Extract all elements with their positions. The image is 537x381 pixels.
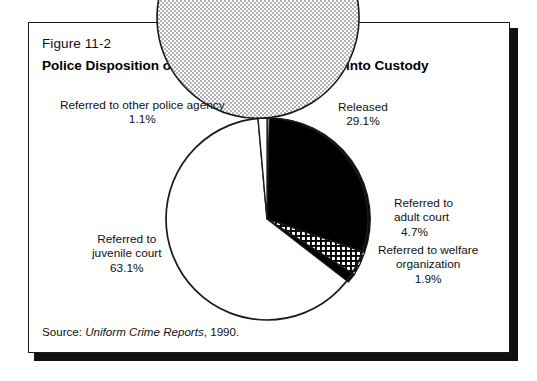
source-publication: Uniform Crime Reports [85, 325, 204, 338]
slice-label-released-text: Released [338, 100, 388, 114]
slice-label-juvenile-line2: juvenile court [92, 246, 162, 260]
slice-label-welfare-organization: Referred to welfare organization 1.9% [378, 243, 478, 286]
slice-label-released-pct: 29.1% [338, 114, 388, 128]
slice-label-other-police-text: Referred to other police agency [60, 98, 225, 112]
slice-label-adult-court: Referred to adult court 4.7% [394, 196, 453, 239]
figure-number: Figure 11-2 [42, 36, 111, 51]
slice-label-welfare-line2: organization [396, 257, 460, 271]
slice-label-adult-court-pct: 4.7% [394, 225, 453, 239]
slice-label-welfare-line1: Referred to welfare [378, 243, 478, 257]
slice-label-other-police-agency: Referred to other police agency 1.1% [60, 98, 225, 127]
slice-label-released: Released 29.1% [338, 100, 388, 129]
source-prefix: Source: [42, 325, 82, 338]
slice-label-juvenile-court: Referred to juvenile court 63.1% [92, 232, 162, 275]
slice-label-juvenile-line1: Referred to [97, 232, 156, 246]
slice-label-adult-court-line2: adult court [394, 210, 449, 224]
slice-label-juvenile-pct: 63.1% [92, 261, 162, 275]
source-suffix: , 1990. [204, 325, 239, 338]
slice-label-other-police-pct: 1.1% [60, 112, 225, 126]
source-note: Source: Uniform Crime Reports, 1990. [42, 325, 239, 338]
slice-label-welfare-pct: 1.9% [378, 272, 478, 286]
slice-label-adult-court-line1: Referred to [394, 196, 453, 210]
page-title: Police Disposition of Juvenile Offenders… [42, 58, 429, 73]
